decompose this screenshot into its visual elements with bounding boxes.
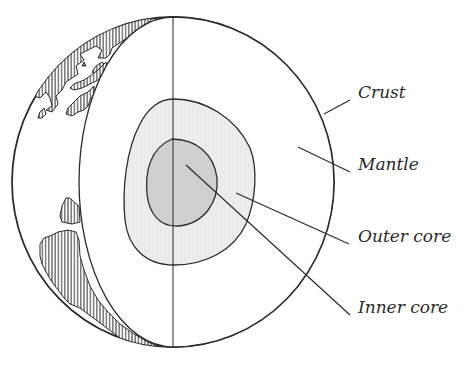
label-crust: Crust <box>358 84 406 101</box>
label-outer-core: Outer core <box>358 228 451 245</box>
leader-crust <box>324 100 350 114</box>
label-inner-core: Inner core <box>358 299 448 316</box>
label-mantle: Mantle <box>358 156 419 173</box>
